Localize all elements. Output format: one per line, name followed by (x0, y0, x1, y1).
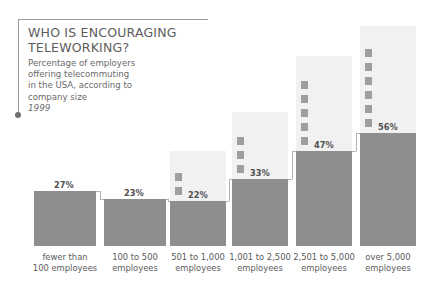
bar-step-marker (175, 173, 182, 181)
bar-connector-segment (168, 201, 170, 202)
bar-step-marker (237, 165, 244, 173)
bar-connector-segment (100, 191, 101, 199)
category-label-line-1: over 5,000 (350, 252, 426, 263)
bar-step-marker (365, 49, 372, 57)
bar-value-column (170, 201, 226, 246)
bar-value-column (34, 191, 96, 246)
bar-value-label: 23% (124, 188, 144, 198)
bar-connector-segment (292, 151, 296, 152)
bar-value-column (232, 179, 288, 246)
bar-value-label: 27% (54, 180, 74, 190)
bar-step-marker (237, 137, 244, 145)
bar-connector-segment (352, 151, 356, 152)
bar-value-label: 33% (250, 168, 270, 178)
bar-step-marker (365, 77, 372, 85)
bar-step-marker (301, 137, 308, 145)
bar-connector-segment (356, 133, 360, 134)
bar-connector-segment (226, 201, 229, 202)
category-label-line-2: employees (350, 263, 426, 274)
bar-step-marker (301, 95, 308, 103)
bar-value-label: 56% (378, 122, 398, 132)
bar-connector-segment (229, 179, 232, 180)
category-label: over 5,000employees (350, 252, 426, 274)
bar-connector-segment (229, 179, 230, 201)
bar-value-column (104, 199, 166, 246)
bar-step-marker (365, 119, 372, 127)
bar-step-marker (237, 151, 244, 159)
bar-step-marker (365, 63, 372, 71)
bar-connector-segment (100, 199, 104, 200)
bar-connector-segment (356, 133, 357, 151)
bar-connector-segment (292, 151, 293, 179)
bar-step-marker (365, 91, 372, 99)
bar-value-column (296, 151, 352, 246)
bar-value-label: 47% (314, 140, 334, 150)
bar-connector-segment (288, 179, 292, 180)
chart-plot-area: 27%fewer than100 employees23%100 to 500e… (0, 0, 430, 293)
bar-value-label: 22% (188, 190, 208, 200)
bar-step-marker (175, 187, 182, 195)
bar-step-marker (365, 105, 372, 113)
bar-step-marker (301, 123, 308, 131)
bar-step-marker (301, 81, 308, 89)
bar-value-column (360, 133, 416, 246)
bar-step-marker (301, 109, 308, 117)
